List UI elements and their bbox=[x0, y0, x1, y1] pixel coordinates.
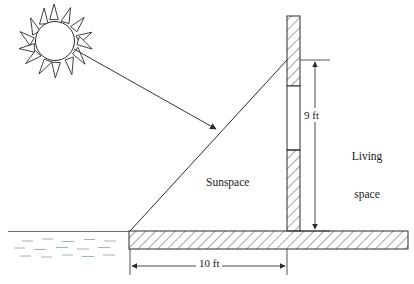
thermal-mass-wall bbox=[287, 16, 300, 231]
height-dimension bbox=[300, 60, 330, 231]
living-space-label: Living space bbox=[340, 124, 394, 227]
solar-ray-arrow bbox=[74, 49, 216, 129]
height-dimension-label: 9 ft bbox=[302, 108, 321, 122]
wall-window-opening bbox=[287, 86, 300, 150]
sunspace-section-diagram: Sunspace Living space 9 ft 10 ft bbox=[0, 0, 414, 284]
living-space-label-line1: Living bbox=[340, 150, 394, 163]
sunspace-glazing-line bbox=[130, 60, 287, 231]
living-space-label-line2: space bbox=[340, 188, 394, 201]
sunspace-label: Sunspace bbox=[206, 176, 249, 189]
width-dimension-label: 10 ft bbox=[196, 257, 222, 269]
earth-ground bbox=[8, 232, 129, 258]
sun-icon bbox=[19, 4, 92, 78]
floor-slab bbox=[129, 231, 408, 249]
